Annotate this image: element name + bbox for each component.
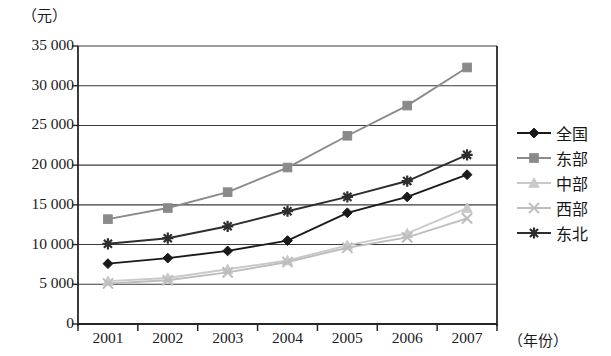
marker-square: [530, 154, 539, 163]
marker-diamond: [223, 246, 233, 256]
legend-label: 东部: [556, 146, 588, 170]
marker-diamond: [462, 170, 472, 180]
legend-item-2[interactable]: 东部: [516, 147, 588, 169]
marker-asterisk: [162, 233, 173, 244]
marker-diamond: [529, 128, 539, 138]
marker-asterisk: [402, 175, 413, 186]
series-line: [108, 175, 467, 264]
marker-square: [463, 63, 472, 72]
legend-label: 全国: [556, 121, 588, 145]
legend-marker-diamond-icon: [516, 125, 552, 141]
legend-marker-square-icon: [516, 150, 552, 166]
marker-cross: [462, 213, 472, 223]
legend-label: 东北: [556, 221, 588, 245]
marker-asterisk: [222, 221, 233, 232]
marker-diamond: [342, 208, 352, 218]
marker-diamond: [402, 192, 412, 202]
marker-diamond: [103, 259, 113, 269]
legend-marker-cross-icon: [516, 200, 552, 216]
marker-asterisk: [528, 227, 539, 238]
legend-item-1[interactable]: 全国: [516, 122, 588, 144]
line-chart: （元） （年份） 05 00010 00015 00020 00025 0003…: [0, 0, 611, 356]
legend-item-5[interactable]: 东北: [516, 222, 588, 244]
legend-label: 中部: [556, 171, 588, 195]
legend-marker-triangle-icon: [516, 175, 552, 191]
marker-asterisk: [282, 206, 293, 217]
legend-item-3[interactable]: 中部: [516, 172, 588, 194]
marker-square: [283, 163, 292, 172]
chart-legend: 全国东部中部西部东北: [516, 122, 588, 244]
series-cross: [103, 213, 472, 288]
marker-asterisk: [102, 238, 113, 249]
marker-square: [163, 204, 172, 213]
marker-square: [343, 131, 352, 140]
legend-marker-asterisk-icon: [516, 225, 552, 241]
marker-asterisk: [461, 149, 472, 160]
series-line: [108, 218, 467, 283]
marker-asterisk: [342, 191, 353, 202]
series-line: [108, 67, 467, 219]
marker-square: [403, 101, 412, 110]
marker-square: [223, 188, 232, 197]
legend-label: 西部: [556, 196, 588, 220]
marker-square: [104, 215, 113, 224]
series-square: [104, 63, 472, 223]
marker-diamond: [163, 253, 173, 263]
series-diamond: [103, 170, 472, 269]
legend-item-4[interactable]: 西部: [516, 197, 588, 219]
